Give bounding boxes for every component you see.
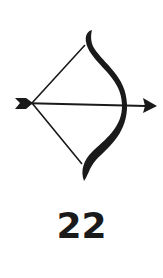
card-number: 22: [0, 206, 163, 246]
arrow-shaft: [20, 103, 146, 106]
arrow-fletching: [15, 98, 33, 109]
arrowhead: [143, 98, 157, 113]
bow-and-arrow-icon: [0, 0, 163, 200]
